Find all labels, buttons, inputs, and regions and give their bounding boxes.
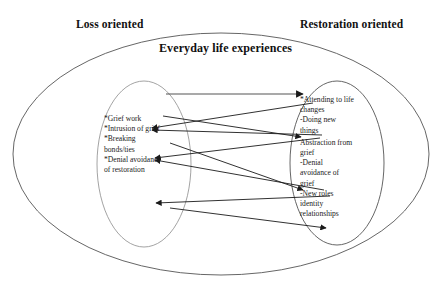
list-item: *Denial avoidance [104, 155, 190, 165]
list-item: -Denial [300, 158, 358, 168]
list-item: Abstraction from [300, 138, 358, 148]
diagram-canvas: Loss oriented Restoration oriented Every… [0, 0, 445, 288]
list-item: relationships [300, 209, 358, 219]
list-item: identity [300, 199, 358, 209]
list-item: -New roles [300, 189, 358, 199]
list-item: *Intrusion of grief [104, 124, 190, 134]
list-item: *Grief work [104, 114, 190, 124]
list-item: *Breaking [104, 134, 190, 144]
title-everyday-life-experiences: Everyday life experiences [159, 41, 292, 56]
list-item: of restoration [104, 165, 190, 175]
list-item: *Attending to life [300, 95, 358, 105]
list-item: -Doing new [300, 115, 358, 125]
header-loss-oriented: Loss oriented [76, 18, 143, 30]
list-item: grief [300, 148, 358, 158]
list-item: changes [300, 105, 358, 115]
outer-ellipse-everyday-life [13, 33, 429, 275]
header-restoration-oriented: Restoration oriented [300, 18, 403, 30]
list-item: things [300, 126, 358, 136]
list-item: avoidance of [300, 168, 358, 178]
list-item: bonds/ties [104, 145, 190, 155]
restoration-oriented-item-list: *Attending to life changes -Doing new th… [300, 95, 358, 219]
list-item: grief [300, 179, 358, 189]
loss-oriented-item-list: *Grief work *Intrusion of grief *Breakin… [104, 114, 190, 175]
